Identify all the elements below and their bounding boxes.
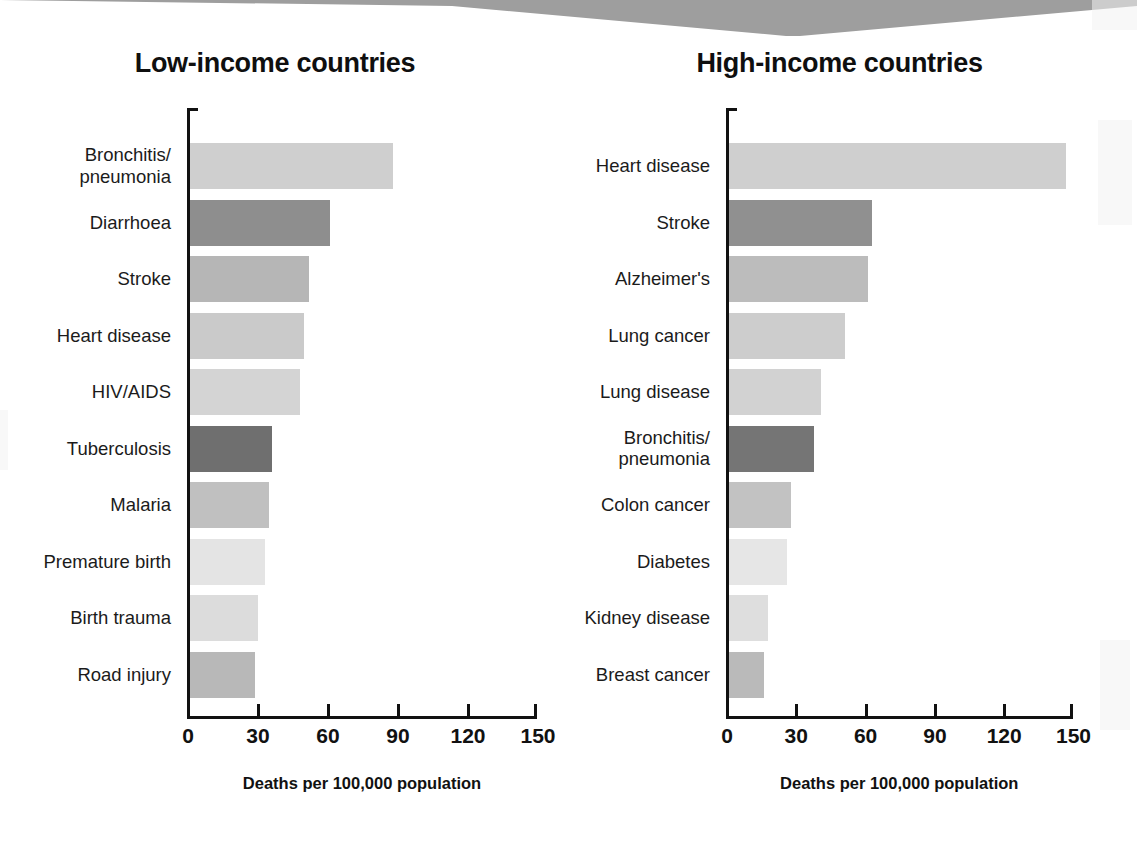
x-axis-tick	[795, 704, 798, 717]
category-label: Diabetes	[480, 551, 710, 573]
x-axis-tick-label: 90	[923, 724, 946, 748]
bar-row: Stroke	[726, 200, 1079, 246]
category-label: Kidney disease	[480, 607, 710, 629]
figure-page: Low-income countries Bronchitis/ pneumon…	[0, 0, 1137, 859]
bar	[729, 313, 845, 359]
category-label: Lung disease	[480, 381, 710, 403]
bar	[190, 482, 269, 528]
bar	[729, 539, 787, 585]
bar	[190, 539, 265, 585]
category-label: Colon cancer	[480, 494, 710, 516]
bar	[190, 143, 393, 189]
category-label: Tuberculosis	[0, 438, 171, 460]
x-axis-tick-label: 90	[386, 724, 409, 748]
x-axis-tick-label: 120	[987, 724, 1022, 748]
category-label: Malaria	[0, 494, 171, 516]
chart-title: Low-income countries	[0, 48, 559, 79]
x-axis-tick-label: 0	[721, 724, 733, 748]
category-label: Lung cancer	[480, 325, 710, 347]
x-axis-tick	[865, 704, 868, 717]
x-axis-tick	[397, 704, 400, 717]
bar-row: Heart disease	[726, 143, 1079, 189]
category-label: Heart disease	[480, 155, 710, 177]
category-label: Bronchitis/ pneumonia	[0, 144, 171, 188]
bar-row: Colon cancer	[726, 482, 1079, 528]
category-label: Birth trauma	[0, 607, 171, 629]
bar	[729, 482, 791, 528]
x-axis-tick-label: 120	[450, 724, 485, 748]
bar-row: Lung cancer	[726, 313, 1079, 359]
y-axis-cap	[187, 108, 198, 111]
bar	[190, 595, 258, 641]
bar	[729, 652, 764, 698]
bar	[190, 256, 309, 302]
x-axis-tick-label: 30	[246, 724, 269, 748]
bar-row: Diabetes	[726, 539, 1079, 585]
x-axis-caption: Deaths per 100,000 population	[780, 774, 1018, 793]
bar-row: Bronchitis/ pneumonia	[726, 426, 1079, 472]
bar	[729, 369, 821, 415]
bar	[190, 652, 255, 698]
category-label: Stroke	[0, 268, 171, 290]
bar	[190, 313, 304, 359]
x-axis-end-cap	[1070, 704, 1073, 719]
bar	[729, 595, 768, 641]
bar-row: Alzheimer's	[726, 256, 1079, 302]
x-axis-line	[726, 716, 1073, 719]
x-axis-tick-label: 150	[1056, 724, 1091, 748]
bar	[729, 426, 814, 472]
category-label: Road injury	[0, 664, 171, 686]
x-axis-tick	[1003, 704, 1006, 717]
x-axis-line	[187, 716, 537, 719]
category-label: Stroke	[480, 212, 710, 234]
chart-title: High-income countries	[541, 48, 1137, 79]
category-label: Premature birth	[0, 551, 171, 573]
category-label: Heart disease	[0, 325, 171, 347]
bar	[190, 426, 272, 472]
category-label: Breast cancer	[480, 664, 710, 686]
bar	[729, 256, 868, 302]
bar	[729, 143, 1066, 189]
x-axis-tick-label: 0	[182, 724, 194, 748]
bar-row: Breast cancer	[726, 652, 1079, 698]
x-axis-tick	[467, 704, 470, 717]
bar	[190, 200, 330, 246]
bar-row: Lung disease	[726, 369, 1079, 415]
category-label: Diarrhoea	[0, 212, 171, 234]
x-axis-tick	[257, 704, 260, 717]
bar-row: Kidney disease	[726, 595, 1079, 641]
x-axis-tick-label: 30	[785, 724, 808, 748]
x-axis-tick	[327, 704, 330, 717]
y-axis-cap	[726, 108, 737, 111]
x-axis-end-cap	[534, 704, 537, 719]
x-axis-tick-label: 60	[854, 724, 877, 748]
bar	[729, 200, 872, 246]
x-axis-caption: Deaths per 100,000 population	[243, 774, 481, 793]
category-label: HIV/AIDS	[0, 381, 171, 403]
x-axis-tick-label: 60	[316, 724, 339, 748]
bar	[190, 369, 300, 415]
category-label: Bronchitis/ pneumonia	[480, 427, 710, 471]
chart-panel-high-income: High-income countries Heart diseaseStrok…	[540, 0, 1137, 859]
category-label: Alzheimer's	[480, 268, 710, 290]
x-axis-tick	[934, 704, 937, 717]
